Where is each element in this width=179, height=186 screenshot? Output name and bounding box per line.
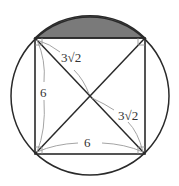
geometry-diagram: 3√2 3√2 6 6 (0, 0, 179, 186)
label-half-diagonal-upper: 3√2 (61, 50, 81, 65)
label-bottom-side: 6 (84, 135, 91, 150)
label-half-diagonal-lower: 3√2 (118, 108, 138, 123)
label-left-side: 6 (40, 85, 47, 100)
